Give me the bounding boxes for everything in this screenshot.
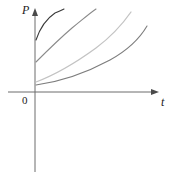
- p-axis-arrowhead: [32, 8, 38, 16]
- p-axis-label: P: [22, 4, 29, 16]
- figure-container: P t 0: [0, 0, 175, 177]
- coordinate-plot: [0, 0, 175, 177]
- t-axis-label: t: [161, 96, 164, 108]
- exponential-curve-3: [36, 12, 131, 82]
- origin-label: 0: [22, 95, 28, 106]
- exponential-curve-4: [36, 26, 147, 85]
- t-axis-arrowhead: [151, 89, 159, 95]
- exponential-curve-1: [36, 9, 64, 40]
